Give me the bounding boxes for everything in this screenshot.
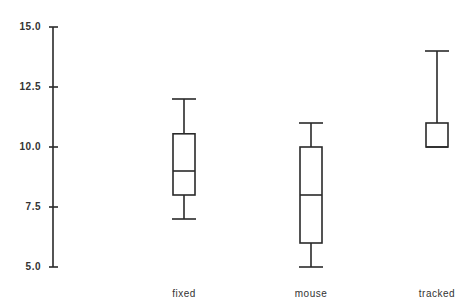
y-axis: 15.012.510.07.55.0	[20, 21, 58, 272]
box-fixed	[172, 99, 196, 219]
box-series	[172, 51, 449, 267]
y-tick-label: 5.0	[26, 261, 41, 272]
box-mouse	[299, 123, 323, 267]
y-tick-label: 15.0	[20, 21, 41, 32]
x-category-label: tracked	[419, 288, 455, 299]
iqr-box	[426, 123, 448, 147]
box-tracked	[425, 51, 449, 147]
x-category-label: mouse	[295, 288, 328, 299]
box-plot-chart: 15.012.510.07.55.0 fixedmousetracked	[0, 0, 469, 301]
x-category-label: fixed	[172, 288, 196, 299]
y-tick-label: 7.5	[26, 201, 41, 212]
x-axis-labels: fixedmousetracked	[172, 288, 455, 299]
y-tick-label: 10.0	[20, 141, 41, 152]
y-tick-label: 12.5	[20, 81, 41, 92]
iqr-box	[173, 134, 195, 195]
